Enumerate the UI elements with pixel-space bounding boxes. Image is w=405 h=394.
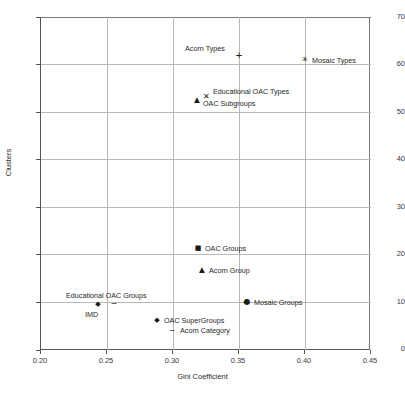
gridline-y-20 [41,254,371,255]
x-tick-label-040: 0.40 [284,356,324,365]
x-tick-label-030: 0.30 [152,356,192,365]
x-tick-label-035: 0.35 [218,356,258,365]
x-tick-mark-025 [106,350,107,354]
y-axis-title: Clusters [4,133,13,193]
data-point-marker-imd: ◆ [95,301,100,308]
data-point-marker-oac-groups: ■ [195,245,202,252]
y-tick-label-50: 50 [369,108,405,116]
data-point-label-imd: IMD [85,310,98,319]
data-point-marker-acorn-category: – [169,326,174,335]
gridline-y-10 [41,302,371,303]
x-axis-title: Gini Coefficient [0,372,405,381]
plot-area: + Acorn Types ✳ Mosaic Types ✕ Education… [40,17,370,350]
data-point-label-acorn-category: Acorn Category [180,326,230,335]
data-point-label-oac-subgroups: OAC Subgroups [203,99,255,108]
x-tick-label-045: 0.45 [350,356,390,365]
x-tick-mark-030 [172,350,173,354]
data-point-marker-oac-supergroups: ◆ [154,317,159,324]
plot-border-right [369,17,370,350]
y-tick-label-0: 0 [369,345,405,353]
x-tick-mark-035 [238,350,239,354]
data-point-label-educational-oac-types: Educational OAC Types [213,87,289,96]
gridline-y-40 [41,159,371,160]
gridline-x-040 [305,17,306,350]
data-point-label-mosaic-groups: Mosaic Groups [254,298,302,307]
y-tick-label-30: 30 [369,203,405,211]
x-tick-label-025: 0.25 [86,356,126,365]
gridline-y-50 [41,112,371,113]
data-point-label-acorn-group: Acorn Group [209,266,250,275]
data-point-label-mosaic-types: Mosaic Types [312,56,356,65]
y-tick-label-40: 40 [369,155,405,163]
x-tick-label-020: 0.20 [20,356,60,365]
x-tick-mark-020 [40,350,41,354]
data-point-label-acorn-types: Acorn Types [185,44,225,53]
gridline-x-030 [173,17,174,350]
data-point-marker-acorn-types: + [236,50,242,61]
data-point-label-educational-oac-groups: Educational OAC Groups [66,291,147,300]
plot-border-top [41,17,371,18]
data-point-marker-mosaic-groups: ● [244,298,251,306]
data-point-label-oac-groups: OAC Groups [205,244,246,253]
scatter-chart-figure: Clusters 70 60 50 40 30 20 10 0 0.20 0.2… [0,0,405,394]
data-point-marker-mosaic-types: ✳ [302,56,309,64]
y-tick-label-20: 20 [369,250,405,258]
data-point-marker-acorn-group: ▲ [199,266,205,274]
y-tick-label-70: 70 [369,13,405,21]
y-tick-label-60: 60 [369,60,405,68]
gridline-x-025 [107,17,108,350]
data-point-marker-oac-subgroups: ▲ [194,96,200,104]
gridline-x-035 [239,17,240,350]
x-tick-mark-040 [304,350,305,354]
gridline-y-30 [41,207,371,208]
y-tick-label-10: 10 [369,298,405,306]
x-tick-mark-045 [370,350,371,354]
